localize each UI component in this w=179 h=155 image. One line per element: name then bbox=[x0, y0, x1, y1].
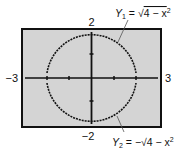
graph-figure: −3 3 2 −2 Y1 = √4 − x2 Y2 = −√4 − x2 bbox=[0, 0, 179, 155]
x-min-label: −3 bbox=[5, 72, 18, 84]
y-max-label: 2 bbox=[88, 16, 94, 28]
x-max-label: 3 bbox=[165, 72, 171, 84]
lower-equation-label: Y2 = −√4 − x2 bbox=[112, 136, 174, 149]
y-min-label: −2 bbox=[82, 130, 95, 142]
upper-equation-label: Y1 = √4 − x2 bbox=[115, 7, 171, 20]
